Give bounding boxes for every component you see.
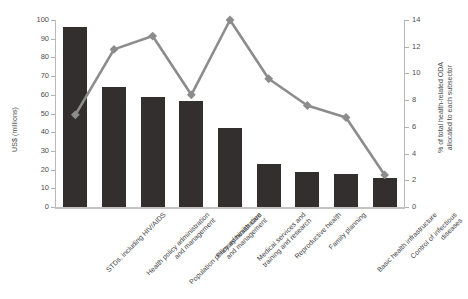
y-axis-left-tick-label: 100 xyxy=(27,16,49,24)
y-axis-right-tick-label: 12 xyxy=(412,43,436,51)
line-series: STDs, including HIV/AIDS: 6.9%Health pol… xyxy=(56,20,404,207)
y-axis-right-title: % of total health-related ODA allocated … xyxy=(436,15,454,200)
y-axis-left-tick-label: 10 xyxy=(27,184,49,192)
x-axis-category-labels: STDs, including HIV/AIDSHealth policy ad… xyxy=(0,207,468,299)
combo-bar-line-chart: US$ (millions) % of total health-related… xyxy=(0,0,468,299)
y-axis-left-tick xyxy=(51,188,55,189)
y-axis-right-tick xyxy=(405,180,409,181)
y-axis-left-tick-label: 50 xyxy=(27,110,49,118)
y-axis-right-tick-label: 8 xyxy=(412,96,436,104)
y-axis-left-tick xyxy=(51,39,55,40)
y-axis-right-tick xyxy=(405,47,409,48)
y-axis-left-tick-label: 70 xyxy=(27,72,49,80)
y-axis-left-tick-label: 80 xyxy=(27,53,49,61)
y-axis-right-title-line-1: % of total health-related ODA xyxy=(436,15,445,200)
y-axis-left-tick xyxy=(51,20,55,21)
y-axis-left-tick xyxy=(51,114,55,115)
y-axis-right-tick xyxy=(405,100,409,101)
y-axis-right-tick xyxy=(405,73,409,74)
x-axis-label: Control of infectiousdiseases xyxy=(409,211,465,267)
y-axis-left-tick xyxy=(51,132,55,133)
line-path xyxy=(75,20,384,175)
y-axis-right-tick-label: 10 xyxy=(412,69,436,77)
y-axis-left-tick xyxy=(51,57,55,58)
y-axis-left-tick xyxy=(51,95,55,96)
y-axis-left-title: US$ (millions) xyxy=(11,107,18,152)
y-axis-left-tick xyxy=(51,76,55,77)
y-axis-left-tick-label: 40 xyxy=(27,128,49,136)
y-axis-right-tick xyxy=(405,20,409,21)
y-axis-right-tick xyxy=(405,127,409,128)
y-axis-left-tick-label: 20 xyxy=(27,166,49,174)
y-axis-left-tick-label: 60 xyxy=(27,91,49,99)
y-axis-right-title-line-2: allocated to each subsector xyxy=(445,15,454,200)
y-axis-right-tick-label: 14 xyxy=(412,16,436,24)
y-axis-left-tick-label: 90 xyxy=(27,35,49,43)
y-axis-left-tick-label: 30 xyxy=(27,147,49,155)
y-axis-right-tick-label: 4 xyxy=(412,150,436,158)
y-axis-right-tick-label: 2 xyxy=(412,176,436,184)
y-axis-right-tick-label: 6 xyxy=(412,123,436,131)
y-axis-right-tick xyxy=(405,154,409,155)
y-axis-left-tick xyxy=(51,151,55,152)
y-axis-left-tick xyxy=(51,170,55,171)
